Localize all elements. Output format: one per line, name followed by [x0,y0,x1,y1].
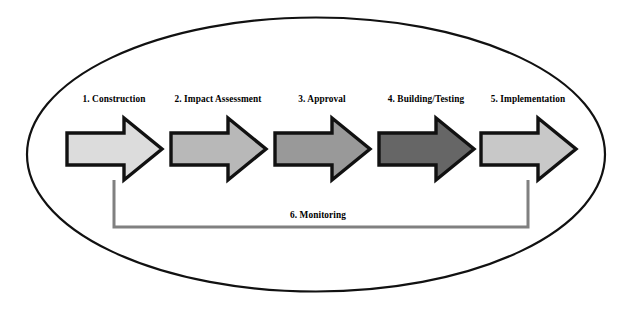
stage-label-5: 5. Implementation [458,94,598,105]
diagram-canvas [0,0,636,313]
feedback-loop-label: 6. Monitoring [248,210,388,221]
process-cycle-diagram: 1. Construction 2. Impact Assessment 3. … [0,0,636,313]
